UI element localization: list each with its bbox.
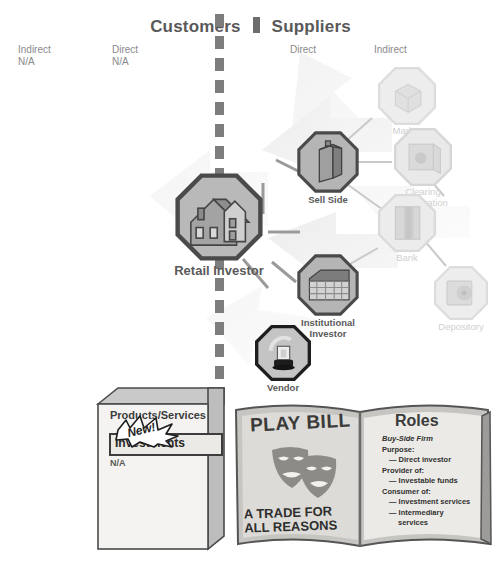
theater-masks-icon <box>268 442 342 502</box>
bank-label: Bank <box>352 252 462 263</box>
role-item: Buy-Side Firm <box>382 434 494 445</box>
column-label: Indirect <box>374 44 407 56</box>
role-item: — Investable funds <box>382 476 494 487</box>
column-customers-direct: Direct N/A <box>112 44 138 68</box>
column-value: N/A <box>112 56 138 68</box>
role-item: Provider of: <box>382 466 494 477</box>
house-icon <box>175 173 263 261</box>
column-suppliers-indirect: Indirect <box>374 44 407 56</box>
warehouse-icon <box>297 254 359 316</box>
clearing-corporation-icon <box>394 128 452 186</box>
roles-list: Buy-Side Firm Purpose: — Direct investor… <box>382 434 494 529</box>
title-suppliers: Suppliers <box>272 17 351 36</box>
roles-title: Roles <box>395 412 439 430</box>
diagram-title: Customers Suppliers <box>0 16 501 37</box>
node-depository[interactable]: Depository <box>434 266 488 320</box>
column-value: N/A <box>18 56 51 68</box>
node-bank[interactable]: Bank <box>378 194 436 252</box>
node-retail-investor[interactable]: Retail Investor <box>175 173 263 261</box>
column-customers-indirect: Indirect N/A <box>18 44 51 68</box>
node-institutional-investor[interactable]: Institutional Investor <box>297 254 359 316</box>
column-label: Direct <box>112 44 138 56</box>
title-separator-icon <box>253 17 260 33</box>
title-customers: Customers <box>150 17 241 36</box>
products-services-box[interactable]: Products/Services Investments New! N/A <box>96 386 226 551</box>
vendor-label: Vendor <box>228 382 338 393</box>
playbill-tagline: A TRADE FOR ALL REASONS <box>244 504 338 535</box>
playbill-panel[interactable]: PLAY BILL A TRADE FOR ALL REASONS Roles … <box>232 398 497 553</box>
safe-icon <box>434 266 488 320</box>
role-item: — Intermediary <box>382 508 494 519</box>
market-icon <box>378 67 436 125</box>
diagram-canvas: Customers Suppliers Indirect N/A Direct … <box>0 0 501 573</box>
role-item: services <box>382 518 494 529</box>
role-item: — Investment services <box>382 497 494 508</box>
office-tower-icon <box>297 131 359 193</box>
products-services-value: N/A <box>110 458 126 468</box>
node-sell-side[interactable]: Sell Side <box>297 131 359 193</box>
retail-investor-label: Retail Investor <box>164 265 274 276</box>
depository-label: Depository <box>406 321 501 332</box>
bank-building-icon <box>378 194 436 252</box>
role-item: Consumer of: <box>382 487 494 498</box>
sell-side-label: Sell Side <box>273 194 383 205</box>
column-label: Indirect <box>18 44 51 56</box>
column-label: Direct <box>290 44 316 56</box>
node-clearing-corporation[interactable]: Clearing Corporation <box>394 128 452 186</box>
role-item: Purpose: <box>382 445 494 456</box>
new-badge: New! <box>114 414 180 448</box>
role-item: — Direct investor <box>382 455 494 466</box>
column-suppliers-direct: Direct <box>290 44 316 56</box>
lamp-icon <box>255 325 311 381</box>
node-market[interactable]: Market <box>378 67 436 125</box>
node-vendor[interactable]: Vendor <box>255 325 311 381</box>
